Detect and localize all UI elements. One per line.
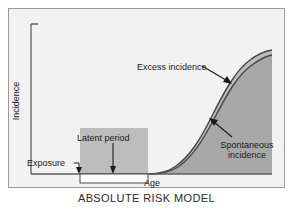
y-axis-label: Incidence [11,71,21,131]
absolute-risk-model-figure: Incidence Age Exposure Latent period Exc… [0,0,293,220]
excess-incidence-arrowhead [223,76,232,84]
spontaneous-incidence-label-line2: incidence [228,150,266,160]
y-axis [31,24,38,174]
exposure-duration-bar [80,174,148,183]
spontaneous-incidence-label-line1: Spontaneous [220,140,273,150]
excess-incidence-label: Excess incidence [137,62,207,72]
exposure-label: Exposure [27,158,65,168]
figure-caption: ABSOLUTE RISK MODEL [0,192,293,204]
spontaneous-incidence-label: Spontaneous incidence [212,140,282,160]
latent-period-label: Latent period [77,133,130,143]
x-axis-label: Age [144,178,160,188]
